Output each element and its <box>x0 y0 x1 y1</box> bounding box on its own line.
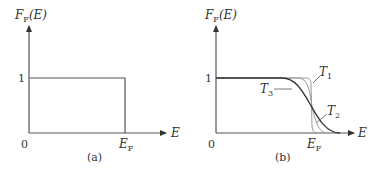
t2-label: T2 <box>327 104 340 120</box>
fermi-energy-label: EF <box>118 137 134 153</box>
origin-label: 0 <box>21 138 28 151</box>
x-axis-label: E <box>357 126 367 140</box>
curve-t2 <box>216 78 326 133</box>
panel-b: FF(E) 1 0 EF E T1 T2 T3 (b) <box>204 8 367 164</box>
x-axis-label: E <box>170 126 180 140</box>
t3-label: T3 <box>260 82 273 98</box>
panel-a: FF(E) 1 0 EF E (a) <box>14 8 180 164</box>
origin-label: 0 <box>208 138 215 151</box>
y-tick-1: 1 <box>205 72 212 85</box>
t1-label: T1 <box>319 65 332 81</box>
fermi-dirac-figure: FF(E) 1 0 EF E (a) FF(E) 1 0 EF E T1 T2 … <box>0 0 381 174</box>
y-tick-1: 1 <box>18 72 25 85</box>
caption-b: (b) <box>275 151 291 164</box>
fermi-energy-label: EF <box>306 137 322 153</box>
caption-a: (a) <box>87 151 102 164</box>
step-function-curve <box>29 78 125 133</box>
y-axis-label: FF(E) <box>204 8 237 24</box>
curve-t3 <box>216 78 340 133</box>
y-axis-label: FF(E) <box>14 8 47 24</box>
